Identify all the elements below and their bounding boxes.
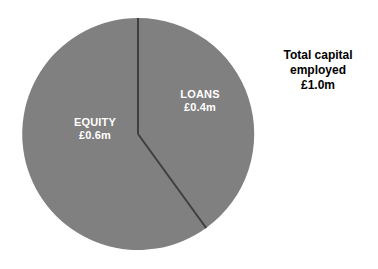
total-caption-line-2: employed bbox=[262, 63, 374, 78]
pie-slice-label-equity-name: EQUITY bbox=[50, 116, 140, 129]
total-capital-employed-caption: Total capital employed £1.0m bbox=[262, 48, 374, 93]
pie-slice-label-equity: EQUITY £0.6m bbox=[50, 116, 140, 142]
total-caption-line-3: £1.0m bbox=[262, 78, 374, 93]
pie-chart-plot-area: EQUITY £0.6m LOANS £0.4m bbox=[20, 16, 256, 252]
pie-chart-figure: EQUITY £0.6m LOANS £0.4m Total capital e… bbox=[0, 0, 378, 269]
pie-slice-label-loans: LOANS £0.4m bbox=[160, 88, 240, 114]
pie-slice-label-equity-value: £0.6m bbox=[50, 129, 140, 142]
pie-slice-label-loans-name: LOANS bbox=[160, 88, 240, 101]
pie-slice-label-loans-value: £0.4m bbox=[160, 101, 240, 114]
total-caption-line-1: Total capital bbox=[262, 48, 374, 63]
